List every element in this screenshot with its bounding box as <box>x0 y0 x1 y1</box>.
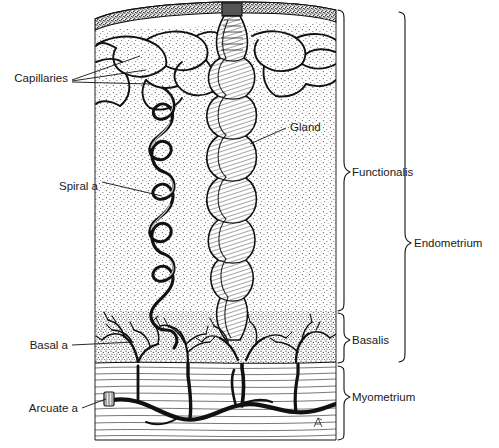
label-capillaries: Capillaries <box>14 72 68 84</box>
label-basal-artery: Basal a <box>30 339 69 351</box>
label-functionalis: Functionalis <box>352 166 414 178</box>
label-myometrium: Myometrium <box>352 391 415 403</box>
anatomical-figure: Capillaries Spiral a Basal a Arcuate a G… <box>0 0 499 448</box>
bracket-myometrium <box>338 366 350 440</box>
label-gland: Gland <box>290 121 321 133</box>
endometrium-diagram: Capillaries Spiral a Basal a Arcuate a G… <box>0 0 499 448</box>
bracket-endometrium <box>399 12 411 362</box>
bracket-functionalis <box>338 10 350 311</box>
left-labels: Capillaries Spiral a Basal a Arcuate a <box>14 72 98 414</box>
label-basalis: Basalis <box>352 334 389 346</box>
label-endometrium: Endometrium <box>414 237 482 249</box>
zone-brackets: Functionalis Basalis Myometrium Endometr… <box>338 10 482 440</box>
label-spiral-artery: Spiral a <box>59 180 99 192</box>
bracket-basalis <box>338 313 350 363</box>
label-arcuate-artery: Arcuate a <box>29 402 79 414</box>
